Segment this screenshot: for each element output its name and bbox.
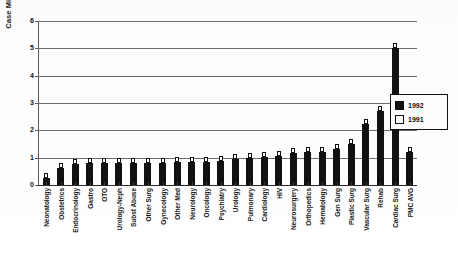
bar-1991[interactable] bbox=[248, 153, 252, 158]
bar-1991[interactable] bbox=[349, 139, 353, 144]
bar-1991[interactable] bbox=[277, 151, 281, 156]
x-axis-label: Obstetrics bbox=[57, 188, 64, 220]
bar-group[interactable] bbox=[373, 21, 388, 185]
bar-1992[interactable] bbox=[348, 144, 355, 185]
bar-1992[interactable] bbox=[261, 157, 268, 185]
bar-1992[interactable] bbox=[246, 158, 253, 185]
bar-1991[interactable] bbox=[73, 159, 77, 164]
legend-item-1991: 1991 bbox=[395, 112, 443, 126]
bar-group[interactable] bbox=[286, 21, 301, 185]
bar-group[interactable] bbox=[126, 21, 141, 185]
x-tick-mark bbox=[192, 182, 193, 186]
bar-1991[interactable] bbox=[161, 158, 165, 163]
bar-1992[interactable] bbox=[275, 156, 282, 185]
x-label-slot: Neurology bbox=[184, 186, 199, 268]
x-axis-label: Urology-Neph bbox=[115, 188, 122, 230]
bar-1992[interactable] bbox=[362, 124, 369, 185]
x-axis-label: Gen Surg bbox=[333, 188, 340, 217]
x-axis-label: Other Med bbox=[174, 188, 181, 220]
x-tick-mark bbox=[366, 182, 367, 186]
bar-group[interactable] bbox=[54, 21, 69, 185]
bar-1991[interactable] bbox=[335, 144, 339, 149]
bar-1992[interactable] bbox=[290, 153, 297, 185]
bar-1991[interactable] bbox=[262, 152, 266, 157]
bar-group[interactable] bbox=[155, 21, 170, 185]
y-tick-mark bbox=[35, 76, 38, 77]
x-tick-mark bbox=[177, 182, 178, 186]
x-axis-label: Hematology bbox=[319, 188, 326, 225]
case-mix-index-chart: Case Mix Index 0123456 NeonatologyObstet… bbox=[0, 0, 458, 270]
bar-group[interactable] bbox=[170, 21, 185, 185]
bar-1992[interactable] bbox=[333, 149, 340, 185]
bar-group[interactable] bbox=[272, 21, 287, 185]
x-axis-label: Cardiology bbox=[261, 188, 268, 221]
x-tick-mark bbox=[119, 182, 120, 186]
bar-1991[interactable] bbox=[88, 158, 92, 163]
x-axis-label: Endocrinology bbox=[72, 188, 79, 233]
x-axis-label: Orthopedics bbox=[304, 188, 311, 226]
bar-1992[interactable] bbox=[406, 152, 413, 185]
y-tick-mark bbox=[35, 21, 38, 22]
x-tick-mark bbox=[75, 182, 76, 186]
x-tick-mark bbox=[90, 182, 91, 186]
bar-group[interactable] bbox=[301, 21, 316, 185]
x-label-slot: Rehab bbox=[373, 186, 388, 268]
y-tick-mark bbox=[35, 185, 38, 186]
x-label-slot: Cardiac Surg bbox=[388, 186, 403, 268]
bar-1991[interactable] bbox=[102, 158, 106, 163]
bar-group[interactable] bbox=[112, 21, 127, 185]
bar-group[interactable] bbox=[39, 21, 54, 185]
bar-1991[interactable] bbox=[44, 173, 48, 178]
bar-group[interactable] bbox=[228, 21, 243, 185]
bar-1991[interactable] bbox=[408, 147, 412, 152]
y-tick-label: 1 bbox=[30, 153, 34, 160]
bar-1991[interactable] bbox=[190, 157, 194, 162]
bar-1991[interactable] bbox=[117, 158, 121, 163]
x-axis-label: Oncology bbox=[203, 188, 210, 218]
bar-1991[interactable] bbox=[59, 163, 63, 168]
bar-1992[interactable] bbox=[319, 152, 326, 185]
x-tick-mark bbox=[380, 182, 381, 186]
y-tick-label: 0 bbox=[30, 181, 34, 188]
x-label-slot: Cardiology bbox=[257, 186, 272, 268]
bar-group[interactable] bbox=[97, 21, 112, 185]
bar-group[interactable] bbox=[344, 21, 359, 185]
bar-1991[interactable] bbox=[146, 158, 150, 163]
x-label-slot: Gastro bbox=[83, 186, 98, 268]
bar-1991[interactable] bbox=[175, 157, 179, 162]
bar-group[interactable] bbox=[359, 21, 374, 185]
bar-1991[interactable] bbox=[306, 147, 310, 152]
bar-1991[interactable] bbox=[378, 106, 382, 111]
bar-group[interactable] bbox=[257, 21, 272, 185]
bar-group[interactable] bbox=[242, 21, 257, 185]
x-label-slot: Gen Surg bbox=[330, 186, 345, 268]
x-tick-mark bbox=[293, 182, 294, 186]
x-tick-mark bbox=[221, 182, 222, 186]
bar-group[interactable] bbox=[184, 21, 199, 185]
x-label-slot: Psychiatry bbox=[213, 186, 228, 268]
bar-group[interactable] bbox=[213, 21, 228, 185]
legend-label-1991: 1991 bbox=[408, 115, 424, 124]
x-label-slot: Subst Abuse bbox=[126, 186, 141, 268]
bar-1991[interactable] bbox=[204, 157, 208, 162]
bar-group[interactable] bbox=[141, 21, 156, 185]
bar-group[interactable] bbox=[199, 21, 214, 185]
bar-1992[interactable] bbox=[304, 152, 311, 185]
bar-1991[interactable] bbox=[233, 154, 237, 159]
x-axis-label: OTO bbox=[101, 188, 108, 202]
bar-group[interactable] bbox=[330, 21, 345, 185]
bar-1991[interactable] bbox=[131, 158, 135, 163]
bar-group[interactable] bbox=[68, 21, 83, 185]
bar-group[interactable] bbox=[83, 21, 98, 185]
bar-group[interactable] bbox=[315, 21, 330, 185]
x-tick-mark bbox=[250, 182, 251, 186]
bar-1992[interactable] bbox=[377, 111, 384, 185]
y-axis-title: Case Mix Index bbox=[2, 0, 16, 56]
x-label-slot: Vascular Surg bbox=[359, 186, 374, 268]
x-axis-category-labels: NeonatologyObstetricsEndocrinologyGastro… bbox=[39, 186, 417, 268]
bar-1991[interactable] bbox=[291, 148, 295, 153]
bar-1991[interactable] bbox=[393, 43, 397, 48]
bar-1991[interactable] bbox=[320, 147, 324, 152]
bar-1991[interactable] bbox=[219, 156, 223, 161]
bar-1991[interactable] bbox=[364, 119, 368, 124]
